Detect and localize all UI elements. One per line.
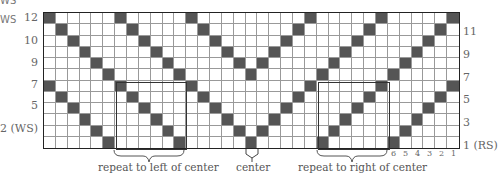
- chart-cell: [447, 24, 459, 35]
- chart-cell: [364, 137, 376, 148]
- chart-cell: [68, 13, 80, 24]
- chart-cell: [151, 13, 163, 24]
- chart-cell: [423, 81, 435, 92]
- chart-cell: [91, 137, 103, 148]
- chart-cell: [329, 36, 341, 47]
- chart-cell: [80, 13, 92, 24]
- chart-cell: [139, 81, 151, 92]
- chart-cell-dark: [376, 13, 388, 24]
- chart-cell: [44, 103, 56, 114]
- chart-cell: [151, 24, 163, 35]
- chart-cell: [186, 126, 198, 137]
- chart-cell-dark: [210, 36, 222, 47]
- chart-cell: [44, 92, 56, 103]
- chart-cell: [234, 69, 246, 80]
- chart-cell: [435, 69, 447, 80]
- chart-cell-dark: [447, 81, 459, 92]
- chart-cell-dark: [151, 114, 163, 125]
- chart-cell: [400, 24, 412, 35]
- chart-cell: [364, 81, 376, 92]
- chart-cell: [91, 36, 103, 47]
- chart-cell: [246, 13, 258, 24]
- chart-cell: [91, 24, 103, 35]
- chart-cell: [186, 137, 198, 148]
- chart-cell: [222, 36, 234, 47]
- chart-cell: [281, 137, 293, 148]
- chart-cell: [44, 126, 56, 137]
- chart-cell: [329, 114, 341, 125]
- chart-cell-dark: [44, 13, 56, 24]
- chart-cell: [447, 36, 459, 47]
- chart-cell: [234, 103, 246, 114]
- chart-cell: [174, 126, 186, 137]
- repeat-right-label: repeat to right of center: [298, 161, 427, 173]
- chart-cell: [317, 92, 329, 103]
- chart-cell: [198, 81, 210, 92]
- chart-cell-dark: [412, 114, 424, 125]
- chart-cell-dark: [257, 126, 269, 137]
- chart-cell: [139, 69, 151, 80]
- chart-cell-dark: [423, 103, 435, 114]
- row-label-11: 11: [463, 26, 477, 37]
- chart-cell-dark: [269, 47, 281, 58]
- chart-cell: [163, 103, 175, 114]
- chart-cell: [44, 69, 56, 80]
- chart-cell-dark: [80, 47, 92, 58]
- chart-cell: [423, 47, 435, 58]
- chart-cell: [222, 13, 234, 24]
- chart-cell: [103, 92, 115, 103]
- chart-cell: [340, 81, 352, 92]
- chart-cell: [435, 137, 447, 148]
- chart-cell: [68, 92, 80, 103]
- chart-cell: [305, 24, 317, 35]
- chart-cell: [400, 13, 412, 24]
- row-label-9: 9: [0, 57, 38, 68]
- chart-cell: [340, 69, 352, 80]
- chart-cell: [127, 126, 139, 137]
- chart-cell: [210, 114, 222, 125]
- chart-cell: [151, 58, 163, 69]
- chart-cell-dark: [115, 13, 127, 24]
- chart-cell: [423, 13, 435, 24]
- chart-cell: [305, 47, 317, 58]
- chart-cell: [364, 47, 376, 58]
- chart-cell: [44, 36, 56, 47]
- chart-cell: [163, 47, 175, 58]
- row-label-1-rs: 1 (RS): [463, 140, 498, 151]
- chart-cell: [269, 58, 281, 69]
- col-number-1: 1: [451, 149, 456, 158]
- chart-cell: [222, 103, 234, 114]
- chart-cell: [376, 137, 388, 148]
- chart-cell: [352, 81, 364, 92]
- chart-cell: [293, 58, 305, 69]
- chart-cell-dark: [352, 103, 364, 114]
- chart-cell: [139, 13, 151, 24]
- chart-cell: [352, 126, 364, 137]
- chart-cell: [340, 137, 352, 148]
- row-label-10: 10: [0, 35, 38, 46]
- chart-cell-dark: [56, 92, 68, 103]
- chart-cell: [115, 36, 127, 47]
- col-number-3: 3: [427, 149, 432, 158]
- chart-cell: [257, 81, 269, 92]
- chart-cell: [447, 58, 459, 69]
- chart-cell-dark: [68, 36, 80, 47]
- chart-cell: [388, 36, 400, 47]
- chart-cell: [210, 47, 222, 58]
- chart-cell: [352, 24, 364, 35]
- chart-cell: [127, 114, 139, 125]
- row-label-7-right: 7: [463, 72, 470, 83]
- chart-cell-dark: [340, 114, 352, 125]
- chart-cell-dark: [281, 36, 293, 47]
- chart-cell: [364, 36, 376, 47]
- chart-cell: [210, 92, 222, 103]
- chart-cell-dark: [163, 58, 175, 69]
- chart-cell: [317, 126, 329, 137]
- chart-cell: [234, 13, 246, 24]
- chart-cell: [56, 58, 68, 69]
- chart-cell: [246, 114, 258, 125]
- chart-cell: [186, 24, 198, 35]
- chart-cell: [103, 126, 115, 137]
- chart-cell-dark: [281, 103, 293, 114]
- chart-cell-dark: [103, 69, 115, 80]
